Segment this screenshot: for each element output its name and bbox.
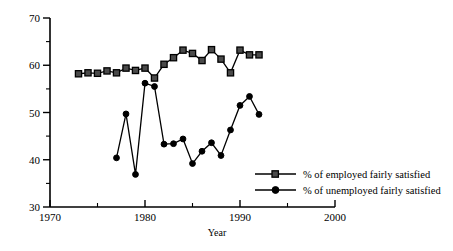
data-point: [246, 52, 252, 58]
legend-label-unemployed: % of unemployed fairly satisfied: [303, 185, 441, 196]
chart-container: 70 60 50 40 30 1970 1980 1990 2000 Year: [0, 0, 453, 251]
data-point: [180, 136, 186, 142]
data-point: [75, 71, 81, 77]
data-point: [180, 47, 186, 53]
data-point: [237, 47, 243, 53]
series-unemployed-fairly-satisfied: [114, 80, 262, 177]
data-point: [142, 80, 148, 86]
data-point: [133, 172, 139, 178]
data-point: [151, 75, 157, 81]
series-line-unemployed: [117, 83, 260, 174]
data-point: [209, 140, 215, 146]
data-point: [123, 111, 129, 117]
y-tick-label-50: 50: [29, 107, 41, 119]
y-tick-label-70: 70: [29, 12, 41, 24]
data-point: [152, 84, 158, 90]
y-tick-label-40: 40: [29, 154, 41, 166]
data-point: [228, 127, 234, 133]
x-tick-label-2000: 2000: [324, 211, 347, 223]
data-point: [161, 141, 167, 147]
data-point: [94, 70, 100, 76]
data-point: [113, 70, 119, 76]
data-point: [114, 155, 120, 161]
data-point: [161, 61, 167, 67]
data-point: [123, 65, 129, 71]
data-point: [208, 47, 214, 53]
legend-marker-square-icon: [272, 171, 278, 177]
x-axis-title: Year: [208, 227, 227, 238]
data-point: [104, 68, 110, 74]
data-point: [237, 103, 243, 109]
data-point: [171, 141, 177, 147]
x-tick-label-1980: 1980: [134, 211, 157, 223]
data-point: [247, 94, 253, 100]
series-employed-fairly-satisfied: [75, 47, 262, 82]
x-tick-label-1970: 1970: [39, 211, 62, 223]
data-point: [227, 70, 233, 76]
data-point: [256, 111, 262, 117]
y-axis-major-ticks: [43, 18, 50, 207]
data-point: [218, 153, 224, 159]
legend-marker-circle-icon: [272, 187, 279, 194]
legend-item-employed[interactable]: % of employed fairly satisfied: [255, 169, 431, 180]
legend-label-employed: % of employed fairly satisfied: [303, 169, 431, 180]
legend-item-unemployed[interactable]: % of unemployed fairly satisfied: [255, 185, 441, 196]
data-point: [256, 52, 262, 58]
data-point: [85, 70, 91, 76]
data-point: [170, 55, 176, 61]
data-point: [132, 67, 138, 73]
data-point: [190, 161, 196, 167]
line-chart: 70 60 50 40 30 1970 1980 1990 2000 Year: [0, 0, 453, 251]
data-point: [218, 56, 224, 62]
legend: % of employed fairly satisfied % of unem…: [255, 169, 441, 196]
x-tick-label-1990: 1990: [229, 211, 252, 223]
y-tick-label-60: 60: [29, 59, 41, 71]
data-point: [199, 148, 205, 154]
data-point: [189, 50, 195, 56]
data-point: [199, 57, 205, 63]
data-point: [142, 65, 148, 71]
